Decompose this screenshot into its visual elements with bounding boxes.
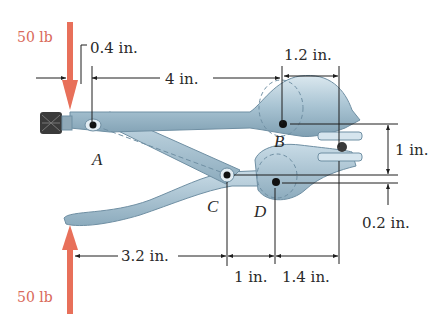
- dim-4-label: 4 in.: [165, 70, 199, 88]
- dim-1-vertical-label: 1 in.: [395, 141, 429, 159]
- pliers-body: [40, 75, 362, 225]
- force-bottom-label: 50 lb: [17, 289, 53, 305]
- pin-C-icon: [220, 168, 234, 182]
- pin-A-icon: [85, 119, 101, 131]
- dim-0-2-label: 0.2 in.: [362, 214, 410, 232]
- lower-handle: [64, 170, 275, 226]
- point-A-label: A: [91, 150, 103, 169]
- pin-D-icon: [272, 178, 280, 186]
- point-C-label: C: [207, 197, 219, 216]
- lower-jaw-tooth: [318, 153, 362, 161]
- pin-B-icon: [279, 120, 287, 128]
- force-top-label: 50 lb: [17, 29, 53, 45]
- pliers-diagram: 50 lb 50 lb: [0, 0, 433, 328]
- force-bottom: 50 lb: [17, 225, 78, 314]
- dim-1-2-label: 1.2 in.: [284, 46, 332, 64]
- upper-jaw-tooth: [318, 132, 362, 140]
- dim-1-bottom-label: 1 in.: [234, 268, 268, 286]
- upper-handle: [70, 75, 360, 136]
- point-B-label: B: [274, 132, 285, 151]
- point-D-label: D: [253, 202, 267, 221]
- dim-0-4-label: 0.4 in.: [90, 39, 138, 57]
- force-top: 50 lb: [17, 22, 78, 110]
- dim-1-4-label: 1.4 in.: [282, 268, 330, 286]
- dim-3-2-label: 3.2 in.: [121, 247, 169, 265]
